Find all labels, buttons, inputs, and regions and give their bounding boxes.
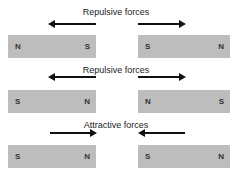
arrow-right-icon <box>138 73 188 81</box>
pole-label: N <box>218 42 224 51</box>
pole-label: S <box>85 42 90 51</box>
magnet-left: S N <box>8 145 96 168</box>
pole-label: S <box>15 97 20 106</box>
pole-label: S <box>15 152 20 161</box>
pole-label: N <box>15 42 21 51</box>
pole-label: S <box>219 97 224 106</box>
pole-label: N <box>145 97 151 106</box>
pole-label: S <box>145 152 150 161</box>
row1-force-label: Repulsive forces <box>83 7 150 17</box>
pole-label: N <box>218 152 224 161</box>
magnet-right: S N <box>138 145 230 168</box>
pole-label: N <box>84 152 90 161</box>
arrow-left-icon <box>48 20 98 28</box>
magnet-left: N S <box>8 35 96 58</box>
arrow-left-icon <box>138 129 186 137</box>
magnet-right: S N <box>138 35 230 58</box>
magnet-right: N S <box>138 90 230 113</box>
arrow-right-icon <box>50 129 98 137</box>
magnet-left: S N <box>8 90 96 113</box>
arrow-left-icon <box>48 73 98 81</box>
pole-label: S <box>145 42 150 51</box>
pole-label: N <box>84 97 90 106</box>
arrow-right-icon <box>138 20 188 28</box>
